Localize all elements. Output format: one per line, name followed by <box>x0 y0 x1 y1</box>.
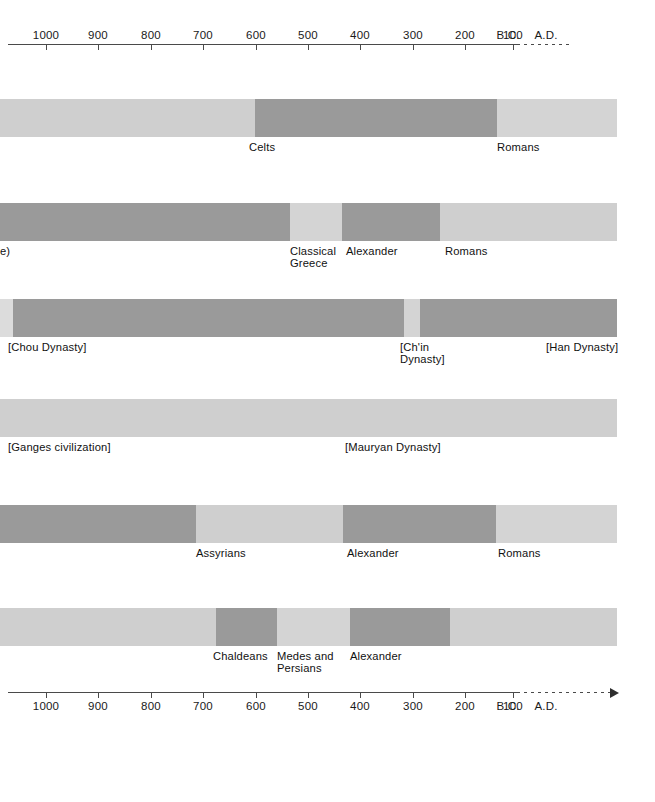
bottom-tick-label-700: 700 <box>193 700 213 712</box>
top-tick-label-600: 600 <box>246 29 266 41</box>
top-tick-label-700: 700 <box>193 29 213 41</box>
bottom-tick-label-500: 500 <box>298 700 318 712</box>
bottom-tick-600 <box>256 693 257 698</box>
timeline-row-greece: e) Classical Greece Alexander Romans <box>0 203 655 271</box>
top-axis-line <box>8 44 517 45</box>
band-china-prechou <box>0 299 13 337</box>
bottom-tick-400 <box>360 693 361 698</box>
band-romans-greece <box>440 203 617 241</box>
bottom-tick-200 <box>465 693 466 698</box>
bottom-axis-arrowhead <box>610 688 619 698</box>
label-mauryan-dynasty: [Mauryan Dynasty] <box>345 442 441 454</box>
band-chou-dynasty <box>13 299 404 337</box>
bottom-tick-label-200: 200 <box>455 700 475 712</box>
timeline-row-china: [Chou Dynasty] [Ch'in Dynasty] [Han Dyna… <box>0 299 655 367</box>
band-europe-early <box>0 99 255 137</box>
label-romans: Romans <box>497 142 540 154</box>
bottom-tick-500 <box>308 693 309 698</box>
timeline-row-europe: Celts Romans <box>0 99 655 157</box>
band-persia-late <box>450 608 617 646</box>
label-alexander-greece: Alexander <box>346 246 398 258</box>
bottom-tick-1000 <box>46 693 47 698</box>
top-axis-dotted-extension <box>517 44 572 45</box>
bottom-axis-dotted-extension <box>517 692 612 693</box>
top-tick-label-400: 400 <box>350 29 370 41</box>
bottom-axis-line <box>8 692 517 693</box>
top-tick-700 <box>203 45 204 50</box>
top-tick-400 <box>360 45 361 50</box>
band-romans-europe <box>497 99 617 137</box>
label-romans-assyria: Romans <box>498 548 541 560</box>
band-assyrians <box>0 505 196 543</box>
label-medes-and-persians: Medes and Persians <box>277 651 334 674</box>
band-alexander-persia <box>350 608 450 646</box>
top-tick-900 <box>98 45 99 50</box>
bottom-tick-label-900: 900 <box>88 700 108 712</box>
top-tick-800 <box>151 45 152 50</box>
label-chou-dynasty: [Chou Dynasty] <box>8 342 87 354</box>
label-celts: Celts <box>249 142 275 154</box>
label-classical-greece: Classical Greece <box>290 246 336 269</box>
band-romans-assyria <box>496 505 617 543</box>
top-tick-300 <box>413 45 414 50</box>
label-han-dynasty: [Han Dynasty] <box>546 342 618 354</box>
label-assyrians: Assyrians <box>196 548 246 560</box>
top-tick-label-1000: 1000 <box>33 29 59 41</box>
band-medes-and-persians <box>277 608 350 646</box>
top-tick-1000 <box>46 45 47 50</box>
bottom-tick-label-300: 300 <box>403 700 423 712</box>
bottom-tick-label-1000: 1000 <box>33 700 59 712</box>
bottom-axis: 1000 900 800 700 600 500 400 300 200 100… <box>0 678 655 708</box>
top-tick-200 <box>465 45 466 50</box>
label-alexander-persia: Alexander <box>350 651 402 663</box>
top-axis: 1000 900 800 700 600 500 400 300 200 100… <box>0 26 655 56</box>
bottom-tick-700 <box>203 693 204 698</box>
label-romans-greece: Romans <box>445 246 488 258</box>
bottom-tick-300 <box>413 693 414 698</box>
band-chaldeans <box>216 608 277 646</box>
top-tick-label-200: 200 <box>455 29 475 41</box>
bottom-tick-label-400: 400 <box>350 700 370 712</box>
top-era-label-ad: A.D. <box>534 29 557 41</box>
band-alexander-assyria <box>343 505 496 543</box>
timeline-row-assyria: Assyrians Alexander Romans <box>0 505 655 563</box>
label-chin-dynasty: [Ch'in Dynasty] <box>400 342 445 365</box>
label-ganges-civilization: [Ganges civilization] <box>8 442 111 454</box>
label-row-e: e) <box>0 246 10 258</box>
band-classical-greece <box>290 203 342 241</box>
label-chaldeans: Chaldeans <box>213 651 268 663</box>
bottom-era-label-bc: B.C. <box>496 700 519 712</box>
band-han-dynasty <box>420 299 617 337</box>
bottom-tick-100 <box>513 693 514 698</box>
timeline-chart: 1000 900 800 700 600 500 400 300 200 100… <box>0 0 655 802</box>
band-assyria-interlude <box>196 505 343 543</box>
top-tick-label-300: 300 <box>403 29 423 41</box>
top-tick-label-800: 800 <box>141 29 161 41</box>
label-alexander-assyria: Alexander <box>347 548 399 560</box>
top-tick-600 <box>256 45 257 50</box>
band-ganges-civilization <box>0 399 617 437</box>
bottom-era-label-ad: A.D. <box>534 700 557 712</box>
band-chin-dynasty <box>404 299 420 337</box>
bottom-tick-900 <box>98 693 99 698</box>
bottom-tick-800 <box>151 693 152 698</box>
timeline-row-persia: Chaldeans Medes and Persians Alexander <box>0 608 655 676</box>
band-alexander-greece <box>342 203 440 241</box>
band-persia-early <box>0 608 216 646</box>
bottom-tick-label-600: 600 <box>246 700 266 712</box>
timeline-row-india: [Ganges civilization] [Mauryan Dynasty] <box>0 399 655 457</box>
top-tick-500 <box>308 45 309 50</box>
top-tick-label-900: 900 <box>88 29 108 41</box>
top-tick-label-500: 500 <box>298 29 318 41</box>
top-tick-100 <box>513 45 514 50</box>
bottom-tick-label-800: 800 <box>141 700 161 712</box>
top-era-label-bc: B.C. <box>496 29 519 41</box>
band-greece-archaic <box>0 203 290 241</box>
band-celts <box>255 99 497 137</box>
